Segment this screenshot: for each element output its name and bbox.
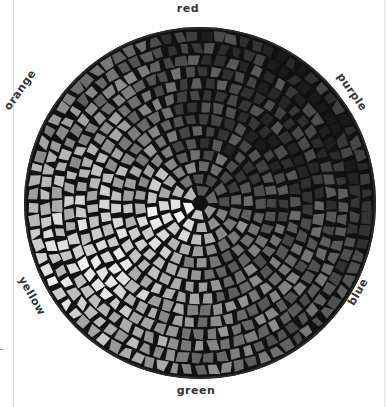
frame-border-left xyxy=(13,0,14,407)
label-green: green xyxy=(177,384,216,397)
frame-border-right xyxy=(384,0,385,407)
mosaic-color-wheel xyxy=(22,22,378,384)
label-red: red xyxy=(177,2,199,15)
margin-tick xyxy=(0,349,3,350)
